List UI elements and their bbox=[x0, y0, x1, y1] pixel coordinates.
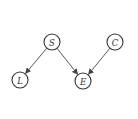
edge-c-to-e bbox=[88, 48, 110, 74]
node-label: S bbox=[49, 38, 55, 48]
bayesian-network-diagram: SCLE bbox=[0, 0, 138, 119]
node-l: L bbox=[12, 72, 28, 88]
node-c: C bbox=[107, 34, 123, 50]
edges-group bbox=[25, 48, 109, 74]
node-label: E bbox=[79, 77, 87, 87]
node-s: S bbox=[44, 34, 60, 50]
edge-s-to-e bbox=[57, 48, 78, 74]
node-label: L bbox=[16, 76, 23, 86]
edge-s-to-l bbox=[25, 48, 46, 73]
node-label: C bbox=[112, 38, 119, 48]
node-e: E bbox=[75, 73, 91, 89]
